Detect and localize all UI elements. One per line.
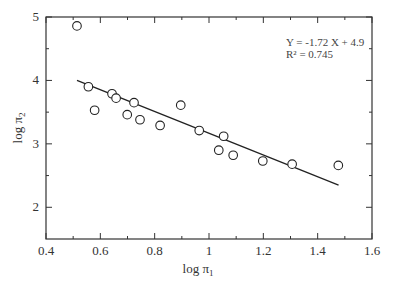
x-axis-title-subscript: 1 [209,268,214,278]
y-axis-title-subscript: 2 [17,113,27,118]
y-axis-title-main: log π [10,117,25,144]
data-point-marker [84,82,93,91]
x-tick-label: 0.8 [147,243,163,258]
data-point-marker [288,160,297,169]
x-tick-label: 1.6 [364,243,381,258]
y-tick-label: 4 [33,72,40,87]
x-tick-label: 1 [206,243,213,258]
data-point-marker [130,98,139,107]
x-axis-title-main: log π [183,261,210,276]
y-axis-title: log π2 [10,113,27,144]
x-axis-title: log π1 [183,261,214,278]
data-point-marker [214,146,223,155]
y-tick-label: 2 [33,199,40,214]
data-point-marker [334,161,343,170]
data-point-marker [136,115,145,124]
data-point-marker [156,121,165,130]
x-tick-label: 1.4 [310,243,327,258]
data-point-marker [219,132,228,141]
data-point-marker [229,151,238,160]
data-point-marker [73,22,82,31]
data-point-marker [176,101,185,110]
y-tick-label: 3 [33,136,40,151]
x-tick-label: 0.6 [92,243,109,258]
data-point-marker [258,157,267,166]
y-tick-label: 5 [33,9,40,24]
data-point-marker [112,94,121,103]
data-point-marker [123,110,132,119]
x-tick-label: 1.2 [255,243,271,258]
r-squared-annotation: R² = 0.745 [286,48,334,60]
data-point-marker [195,126,204,135]
equation-annotation: Y = -1.72 X + 4.9 [286,36,365,48]
scatter-chart: 0.40.60.811.21.41.62345 Y = -1.72 X + 4.… [0,0,393,285]
data-point-marker [90,106,99,115]
x-tick-label: 0.4 [38,243,55,258]
